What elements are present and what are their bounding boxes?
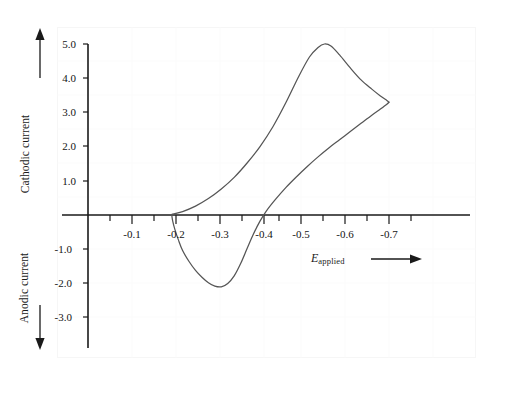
y-tick-label-3: 2.0 bbox=[40, 140, 76, 152]
x-axis-subscript: applied bbox=[318, 256, 344, 266]
x-axis-label-eapplied: Eapplied bbox=[311, 251, 345, 266]
y-tick-label-7: -3.0 bbox=[36, 311, 72, 323]
plot-canvas bbox=[0, 0, 515, 396]
x-tick-label-1: -0.2 bbox=[156, 228, 196, 240]
plot-frame bbox=[58, 28, 476, 358]
y-tick-label-5: -1.0 bbox=[36, 243, 72, 255]
y-axis-label-anodic: Anodic current bbox=[18, 238, 30, 338]
x-tick-label-0: -0.1 bbox=[112, 228, 152, 240]
y-tick-label-0: 5.0 bbox=[40, 38, 76, 50]
cyclic-voltammogram-figure: Cathodic current Anodic current Eapplied… bbox=[0, 0, 515, 396]
y-tick-label-4: 1.0 bbox=[40, 175, 76, 187]
y-tick-label-2: 3.0 bbox=[40, 106, 76, 118]
y-axis-label-cathodic: Cathodic current bbox=[19, 104, 31, 204]
x-tick-label-6: -0.7 bbox=[369, 228, 409, 240]
x-tick-label-2: -0.3 bbox=[200, 228, 240, 240]
x-tick-label-3: -0.4 bbox=[244, 228, 284, 240]
x-tick-label-4: -0.5 bbox=[281, 228, 321, 240]
grid-lines bbox=[58, 28, 476, 358]
y-tick-label-1: 4.0 bbox=[40, 72, 76, 84]
reverse-sweep-curve bbox=[172, 102, 389, 287]
x-tick-label-5: -0.6 bbox=[325, 228, 365, 240]
y-tick-label-6: -2.0 bbox=[36, 277, 72, 289]
